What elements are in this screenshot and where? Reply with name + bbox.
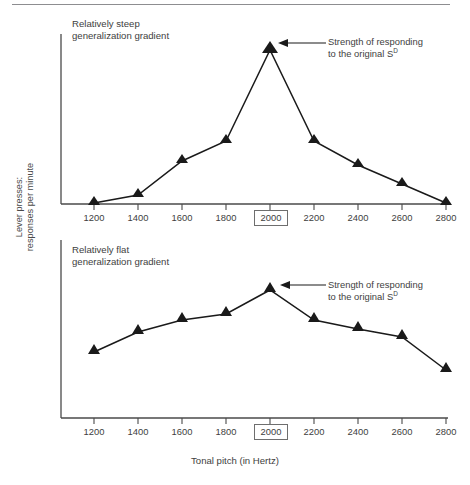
data-point-marker <box>88 344 100 354</box>
callout-arrow-top <box>278 39 326 47</box>
x-tick-labels-top: 1200 1400 1600 1800 2000 2200 2400 2600 … <box>0 212 470 228</box>
plot-top <box>0 14 470 219</box>
chart-panel-top: Relatively steep generalization gradient… <box>0 14 470 219</box>
tick-label-1600: 1600 <box>165 426 199 437</box>
data-point-marker <box>176 312 188 322</box>
tick-label-2000-highlighted: 2000 <box>254 424 288 440</box>
data-point-marker <box>308 134 320 143</box>
data-point-marker <box>88 196 100 205</box>
data-markers-bottom <box>88 282 452 372</box>
data-point-marker <box>262 41 278 53</box>
tick-label-2800: 2800 <box>429 426 463 437</box>
callout-arrow-bottom <box>280 281 326 289</box>
tick-label-2000-highlighted: 2000 <box>254 210 288 226</box>
x-axis-label: Tonal pitch (in Hertz) <box>0 455 470 466</box>
plot-bottom <box>0 240 470 445</box>
tick-label-2600: 2600 <box>385 426 419 437</box>
data-line-top <box>94 50 446 203</box>
data-point-marker <box>264 282 276 292</box>
x-tick-labels-bottom: 1200 1400 1600 1800 2000 2200 2400 2600 … <box>0 426 470 442</box>
data-point-marker <box>132 324 144 334</box>
tick-label-2400: 2400 <box>341 426 375 437</box>
data-line-bottom <box>94 290 446 370</box>
tick-label-1400: 1400 <box>121 426 155 437</box>
data-point-marker <box>352 321 364 331</box>
data-point-marker <box>396 329 408 339</box>
tick-label-1800: 1800 <box>209 426 243 437</box>
data-markers-top <box>88 41 452 205</box>
chart-panel-bottom: Relatively flat generalization gradient … <box>0 240 470 445</box>
tick-label-2200: 2200 <box>297 426 331 437</box>
tick-label-1400: 1400 <box>121 212 155 223</box>
tick-label-1800: 1800 <box>209 212 243 223</box>
generalization-gradient-figure: Lever presses: responses per minute Rela… <box>0 0 470 485</box>
tick-label-1200: 1200 <box>77 426 111 437</box>
data-point-marker <box>220 134 232 143</box>
tick-label-1200: 1200 <box>77 212 111 223</box>
tick-label-2200: 2200 <box>297 212 331 223</box>
tick-label-1600: 1600 <box>165 212 199 223</box>
tick-label-2400: 2400 <box>341 212 375 223</box>
tick-label-2600: 2600 <box>385 212 419 223</box>
top-horizontal-rule <box>12 4 450 5</box>
tick-label-2800: 2800 <box>429 212 463 223</box>
